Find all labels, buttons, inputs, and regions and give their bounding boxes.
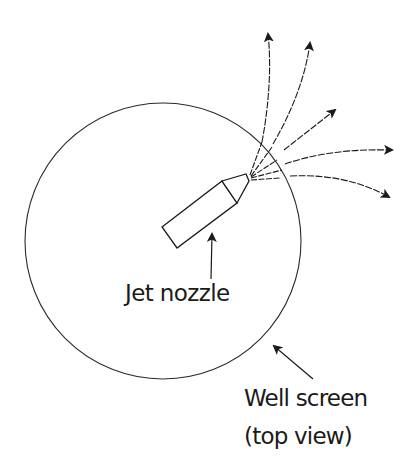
- diagram-canvas: Jet nozzle Well screen (top view): [0, 0, 413, 465]
- nozzle-body: [162, 181, 237, 248]
- jet-nozzle-label: Jet nozzle: [125, 282, 230, 305]
- jet-stream-5: [290, 176, 389, 197]
- jet-stream-2: [273, 43, 310, 144]
- jet-nozzle-icon: [162, 174, 249, 248]
- spray-rays: [250, 142, 282, 180]
- well-screen-pointer-arrow: [274, 346, 313, 379]
- top-view-label: (top view): [244, 425, 352, 448]
- jet-stream-1: [262, 34, 270, 142]
- jet-streams: [262, 34, 392, 197]
- jet-nozzle-pointer-arrow: [211, 234, 212, 279]
- jet-stream-4: [285, 150, 392, 164]
- well-screen-circle: [25, 103, 301, 379]
- well-screen-label: Well screen: [244, 387, 367, 410]
- jet-stream-3: [284, 110, 335, 150]
